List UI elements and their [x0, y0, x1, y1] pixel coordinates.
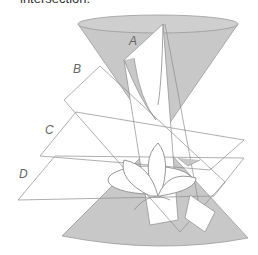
conic-sections-diagram: A B C D — [0, 0, 258, 255]
label-b: B — [73, 62, 81, 76]
label-d: D — [19, 167, 28, 181]
label-c: C — [45, 123, 54, 137]
label-a: A — [128, 34, 137, 48]
